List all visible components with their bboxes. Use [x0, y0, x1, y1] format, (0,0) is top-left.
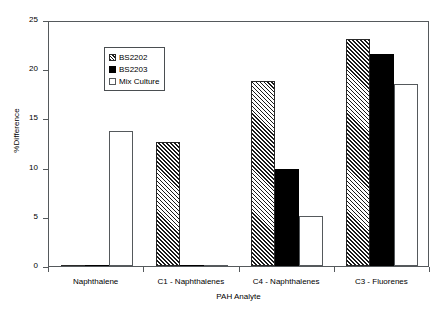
bar-bs2203: [370, 54, 394, 266]
bar-bs2202: [61, 265, 85, 266]
bar-mix-culture: [299, 216, 323, 266]
bar-bs2203: [275, 169, 299, 266]
legend-swatch-icon: [109, 66, 116, 73]
legend-item-label: BS2203: [119, 65, 147, 74]
legend-swatch-icon: [109, 78, 116, 85]
legend-item[interactable]: Mix Culture: [109, 75, 159, 87]
y-axis-tick-label: 10: [29, 163, 38, 172]
y-axis-label: %Difference: [12, 71, 21, 191]
plot-area: BS2202BS2203Mix Culture: [48, 21, 429, 267]
x-axis-tick-mark: [48, 267, 49, 272]
legend-item-label: Mix Culture: [119, 77, 159, 86]
y-axis-tick-label: 25: [29, 15, 38, 24]
chart-legend: BS2202BS2203Mix Culture: [104, 47, 165, 91]
bar-bs2202: [251, 81, 275, 266]
bar-bs2202: [346, 39, 370, 266]
y-axis-tick-label: 0: [34, 261, 38, 270]
x-axis-tick-mark: [239, 267, 240, 272]
x-axis-group-label: C3 - Fluorenes: [334, 277, 429, 286]
bar-mix-culture: [109, 131, 133, 266]
bar-bs2202: [156, 142, 180, 266]
legend-swatch-icon: [109, 54, 116, 61]
x-axis-group-label: C1 - Naphthalenes: [143, 277, 238, 286]
bar-bs2203: [85, 265, 109, 266]
bar-mix-culture: [204, 265, 228, 266]
x-axis-group-label: Naphthalene: [48, 277, 143, 286]
x-axis-tick-mark: [334, 267, 335, 272]
y-axis-tick-label: 15: [29, 113, 38, 122]
legend-item[interactable]: BS2203: [109, 63, 159, 75]
y-axis-tick-label: 5: [34, 212, 38, 221]
x-axis-tick-mark: [143, 267, 144, 272]
legend-item-label: BS2202: [119, 53, 147, 62]
x-axis-group-label: C4 - Naphthalenes: [239, 277, 334, 286]
bar-mix-culture: [394, 84, 418, 266]
x-axis-label: PAH Analyte: [48, 292, 429, 301]
bar-bs2203: [180, 265, 204, 266]
x-axis-tick-mark: [429, 267, 430, 272]
legend-item[interactable]: BS2202: [109, 51, 159, 63]
y-axis-tick-label: 20: [29, 64, 38, 73]
bar-chart-figure: %Difference PAH Analyte 0510152025 BS220…: [0, 0, 440, 311]
